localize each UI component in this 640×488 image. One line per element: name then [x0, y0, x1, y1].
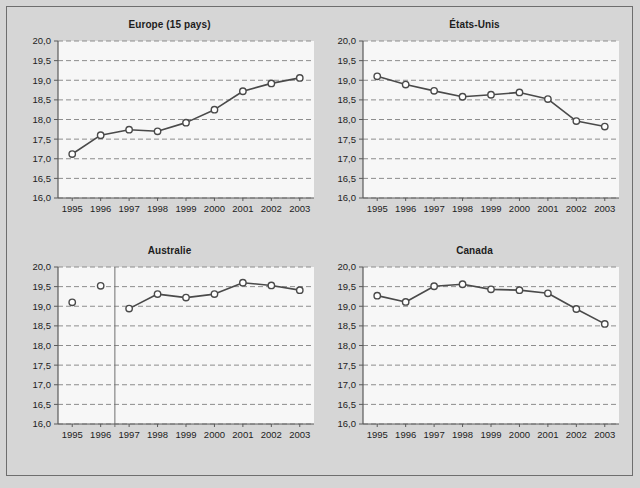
data-point-marker	[488, 92, 494, 98]
x-tick-label: 1997	[424, 203, 445, 214]
x-tick-label: 2000	[509, 429, 530, 440]
data-point-marker	[516, 287, 522, 293]
data-point-marker	[97, 283, 103, 289]
x-tick-label: 2003	[289, 429, 310, 440]
y-tick-label: 18,5	[338, 94, 357, 105]
chart-panel-europe: Europe (15 pays) 16,016,517,017,518,018,…	[17, 19, 322, 234]
x-tick-label: 2002	[566, 429, 587, 440]
data-point-marker	[573, 306, 579, 312]
data-point-marker	[183, 294, 189, 300]
data-point-marker	[545, 290, 551, 296]
y-tick-label: 16,0	[338, 192, 357, 203]
chart-svg-europe: 16,016,517,017,518,018,519,019,520,01995…	[17, 35, 322, 225]
x-tick-label: 2002	[566, 203, 587, 214]
data-point-marker	[374, 73, 380, 79]
x-tick-label: 1998	[147, 429, 168, 440]
data-point-marker	[240, 280, 246, 286]
y-tick-label: 19,5	[33, 281, 52, 292]
data-point-marker	[240, 88, 246, 94]
y-tick-label: 18,0	[338, 114, 357, 125]
y-tick-label: 19,0	[338, 75, 357, 86]
y-tick-label: 20,0	[33, 35, 52, 46]
x-tick-label: 2001	[232, 203, 253, 214]
chart-title-etats-unis: États-Unis	[322, 19, 627, 30]
data-point-marker	[573, 118, 579, 124]
x-tick-label: 1998	[452, 203, 473, 214]
data-point-marker	[69, 151, 75, 157]
chart-panel-etats-unis: États-Unis 16,016,517,017,518,018,519,01…	[322, 19, 627, 234]
plot-area-etats-unis: 16,016,517,017,518,018,519,019,520,01995…	[322, 35, 627, 225]
x-tick-label: 2002	[261, 429, 282, 440]
y-tick-label: 16,0	[33, 192, 52, 203]
chart-title-canada: Canada	[322, 245, 627, 256]
y-tick-label: 16,0	[338, 418, 357, 429]
data-point-marker	[211, 291, 217, 297]
y-tick-label: 18,0	[33, 114, 52, 125]
plot-area-australie: 16,016,517,017,518,018,519,019,520,01995…	[17, 261, 322, 451]
y-tick-label: 20,0	[338, 261, 357, 272]
y-tick-label: 19,0	[338, 301, 357, 312]
plot-area-canada: 16,016,517,017,518,018,519,019,520,01995…	[322, 261, 627, 451]
y-tick-label: 19,5	[33, 55, 52, 66]
x-tick-label: 2003	[289, 203, 310, 214]
data-point-marker	[297, 75, 303, 81]
data-point-marker	[602, 123, 608, 129]
y-tick-label: 17,5	[33, 360, 52, 371]
chart-svg-australie: 16,016,517,017,518,018,519,019,520,01995…	[17, 261, 322, 451]
data-point-marker	[488, 286, 494, 292]
x-tick-label: 1998	[147, 203, 168, 214]
data-point-marker	[545, 96, 551, 102]
y-tick-label: 20,0	[33, 261, 52, 272]
y-tick-label: 18,5	[338, 320, 357, 331]
x-tick-label: 1996	[395, 429, 416, 440]
data-point-marker	[402, 81, 408, 87]
chart-title-australie: Australie	[17, 245, 322, 256]
x-tick-label: 2000	[509, 203, 530, 214]
x-tick-label: 1999	[480, 203, 501, 214]
x-tick-label: 1996	[90, 203, 111, 214]
x-tick-label: 1995	[62, 203, 83, 214]
x-tick-label: 2000	[204, 203, 225, 214]
x-tick-label: 2001	[537, 429, 558, 440]
figure-root: Europe (15 pays) 16,016,517,017,518,018,…	[0, 0, 640, 488]
x-tick-label: 1999	[175, 429, 196, 440]
data-point-marker	[459, 281, 465, 287]
data-point-marker	[431, 88, 437, 94]
y-tick-label: 17,5	[338, 134, 357, 145]
y-tick-label: 17,5	[33, 134, 52, 145]
x-tick-label: 1995	[62, 429, 83, 440]
x-tick-label: 2002	[261, 203, 282, 214]
x-tick-label: 1999	[480, 429, 501, 440]
x-tick-label: 1997	[119, 203, 140, 214]
data-point-marker	[297, 287, 303, 293]
y-tick-label: 16,5	[338, 399, 357, 410]
y-tick-label: 17,0	[33, 153, 52, 164]
chart-svg-etats-unis: 16,016,517,017,518,018,519,019,520,01995…	[322, 35, 627, 225]
y-tick-label: 19,0	[33, 75, 52, 86]
x-tick-label: 1996	[395, 203, 416, 214]
y-tick-label: 18,5	[33, 320, 52, 331]
data-point-marker	[268, 80, 274, 86]
data-point-marker	[268, 282, 274, 288]
y-tick-label: 19,5	[338, 281, 357, 292]
x-tick-label: 2001	[537, 203, 558, 214]
data-point-marker	[97, 132, 103, 138]
data-point-marker	[431, 283, 437, 289]
y-tick-label: 16,5	[33, 399, 52, 410]
data-point-marker	[516, 89, 522, 95]
y-tick-label: 18,0	[33, 340, 52, 351]
x-tick-label: 2003	[594, 203, 615, 214]
y-tick-label: 16,5	[338, 173, 357, 184]
data-point-marker	[211, 106, 217, 112]
x-tick-label: 1999	[175, 203, 196, 214]
figure-frame: Europe (15 pays) 16,016,517,017,518,018,…	[6, 6, 633, 476]
data-point-marker	[402, 299, 408, 305]
y-tick-label: 20,0	[338, 35, 357, 46]
plot-area-europe: 16,016,517,017,518,018,519,019,520,01995…	[17, 35, 322, 225]
y-tick-label: 17,0	[338, 153, 357, 164]
data-point-marker	[183, 119, 189, 125]
y-tick-label: 16,0	[33, 418, 52, 429]
data-point-marker	[126, 127, 132, 133]
chart-title-europe: Europe (15 pays)	[17, 19, 322, 30]
data-point-marker	[154, 291, 160, 297]
